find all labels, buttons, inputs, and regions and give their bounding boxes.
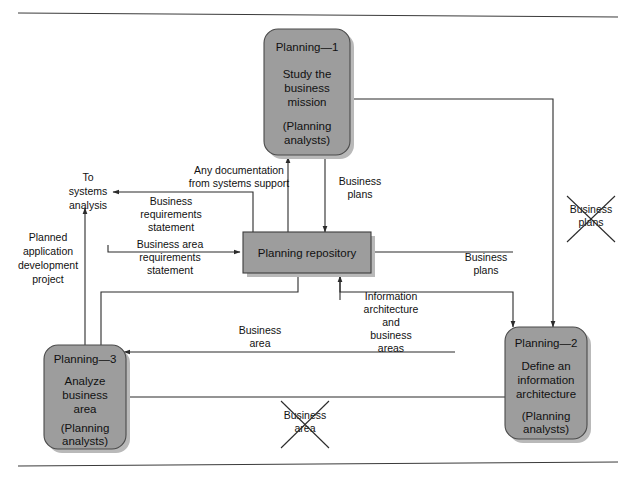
- planning-3-name-line3: area: [73, 403, 97, 415]
- business-plans-struck-line2: plans: [578, 216, 603, 228]
- business-plans-repo-line2: plans: [347, 188, 372, 200]
- planning-3-name-line1: Analyze: [65, 375, 106, 387]
- planning-1-number: Planning—1: [276, 41, 339, 53]
- bottom-rule: [18, 462, 618, 466]
- flow-label-business-requirements-statement: Business requirements statement: [140, 195, 201, 233]
- planned-application-line3: development: [18, 259, 78, 271]
- planned-application-line2: application: [23, 245, 73, 257]
- business-area-repo-line2: area: [249, 337, 270, 349]
- planning-3-actor-line1: (Planning: [61, 422, 110, 434]
- flow-label-business-plans-to-planning-2: Business plans: [465, 251, 508, 276]
- process-planning-1[interactable]: Planning—1 Study the business mission (P…: [264, 29, 354, 159]
- business-area-requirements-line1: Business area: [137, 238, 204, 250]
- planning-3-actor-line2: analysts): [62, 435, 108, 447]
- diagram-canvas: Planning—1 Study the business mission (P…: [0, 0, 633, 478]
- planning-2-name-line1: Define an: [521, 360, 570, 372]
- information-architecture-line4: business: [370, 329, 411, 341]
- planning-1-name-line1: Study the: [283, 68, 332, 80]
- planning-2-name-line2: information: [518, 374, 575, 386]
- planning-1-name-line2: business: [284, 82, 330, 94]
- planning-1-actor-line2: analysts): [284, 134, 330, 146]
- to-systems-analysis-line1: To: [82, 171, 93, 183]
- flow-label-business-area-to-repository: Business area: [239, 324, 282, 349]
- any-documentation-line1: Any documentation: [194, 164, 284, 176]
- business-area-repo-line1: Business: [239, 324, 282, 336]
- planning-2-name-line3: architecture: [516, 388, 576, 400]
- any-documentation-line2: from systems support: [189, 177, 289, 189]
- planning-2-actor-line2: analysts): [523, 423, 569, 435]
- planning-repository-label: Planning repository: [258, 247, 357, 259]
- information-architecture-line2: architecture: [364, 303, 419, 315]
- process-planning-3[interactable]: Planning—3 Analyze business area (Planni…: [44, 345, 130, 453]
- planned-application-line4: project: [32, 273, 64, 285]
- business-plans-p2-line1: Business: [465, 251, 508, 263]
- to-systems-analysis-line2: systems: [69, 185, 108, 197]
- top-rule: [18, 13, 618, 17]
- business-area-struck-line1: Business: [284, 409, 327, 421]
- planning-3-number: Planning—3: [54, 353, 117, 365]
- business-requirements-line2: requirements: [140, 208, 201, 220]
- datastore-planning-repository[interactable]: Planning repository: [243, 232, 375, 277]
- information-architecture-line1: Information: [365, 290, 418, 302]
- information-architecture-line3: and: [382, 316, 400, 328]
- planning-1-actor-line1: (Planning: [283, 120, 332, 132]
- business-area-requirements-line2: requirements: [139, 251, 200, 263]
- flow-label-business-plans-to-repository: Business plans: [339, 175, 382, 200]
- struck-annotation-business-area: Business area: [281, 401, 329, 448]
- struck-annotation-business-plans: Business plans: [567, 196, 615, 242]
- to-systems-analysis-line3: analysis: [69, 199, 107, 211]
- planning-1-name-line3: mission: [288, 96, 327, 108]
- planned-application-line1: Planned: [29, 231, 68, 243]
- external-planned-application-project: Planned application development project: [18, 231, 78, 285]
- external-to-systems-analysis: To systems analysis: [69, 171, 108, 211]
- planning-3-name-line2: business: [62, 389, 108, 401]
- business-plans-p2-line2: plans: [473, 264, 498, 276]
- business-area-requirements-line3: statement: [147, 264, 193, 276]
- information-architecture-line5: areas: [378, 342, 404, 354]
- business-requirements-line1: Business: [150, 195, 193, 207]
- planning-dfd-figure: Planning—1 Study the business mission (P…: [0, 0, 633, 478]
- business-plans-repo-line1: Business: [339, 175, 382, 187]
- planning-2-number: Planning—2: [515, 337, 578, 349]
- flow-label-information-architecture: Information architecture and business ar…: [364, 290, 419, 354]
- planning-2-actor-line1: (Planning: [522, 410, 571, 422]
- flow-label-any-documentation: Any documentation from systems support: [189, 164, 289, 189]
- business-requirements-line3: statement: [148, 221, 194, 233]
- flow-label-business-area-requirements-statement: Business area requirements statement: [137, 238, 204, 276]
- process-planning-2[interactable]: Planning—2 Define an information archite…: [505, 327, 591, 443]
